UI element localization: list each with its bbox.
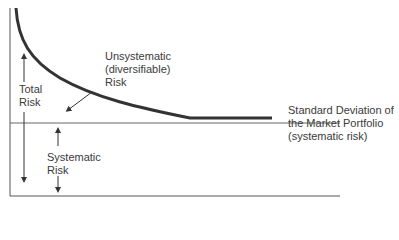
market-sd-line-1: Standard Deviation of: [288, 104, 394, 117]
market-sd-line-2: the Market Portfolio: [288, 117, 394, 130]
unsystematic-line-1: Unsystematic: [105, 50, 171, 63]
systematic-line-1: Systematic: [47, 151, 101, 164]
total-risk-line-2: Risk: [19, 96, 42, 109]
market-sd-line-3: (systematic risk): [288, 130, 394, 143]
unsystematic-pointer-arrow: [68, 92, 92, 110]
systematic-risk-label: Systematic Risk: [47, 151, 101, 177]
unsystematic-line-3: Risk: [105, 76, 171, 89]
total-risk-label: Total Risk: [19, 83, 42, 109]
unsystematic-risk-label: Unsystematic (diversifiable) Risk: [105, 50, 171, 89]
systematic-line-2: Risk: [47, 164, 101, 177]
market-sd-label: Standard Deviation of the Market Portfol…: [288, 104, 394, 143]
total-risk-line-1: Total: [19, 83, 42, 96]
unsystematic-line-2: (diversifiable): [105, 63, 171, 76]
